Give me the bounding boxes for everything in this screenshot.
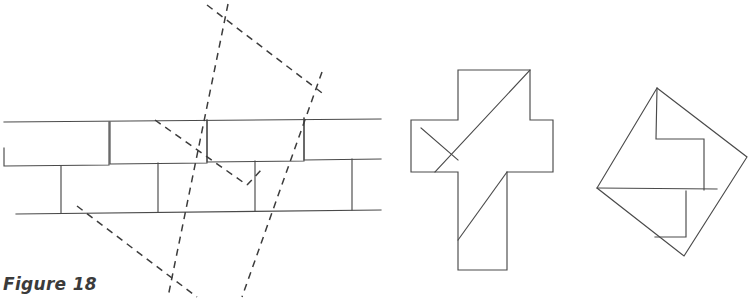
figure-root: Figure 18	[0, 0, 752, 301]
canvas-background	[0, 0, 752, 301]
figure-drawing-canvas	[0, 0, 752, 301]
figure-caption: Figure 18	[3, 274, 97, 294]
